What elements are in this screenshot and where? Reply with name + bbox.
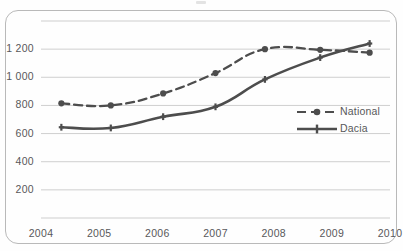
- legend-item-national[interactable]: National: [296, 104, 394, 121]
- data-point-dacia: [367, 40, 372, 47]
- chart-figure: 2004006008001 0001 200 20042005200620072…: [0, 0, 403, 251]
- y-tick-label: 600: [0, 127, 34, 139]
- x-tick-label: 2007: [194, 227, 238, 239]
- data-point-national: [262, 46, 268, 52]
- solid-plus-marker-icon: [296, 121, 338, 137]
- y-tick-label: 200: [0, 183, 34, 195]
- legend-label-dacia: Dacia: [340, 122, 368, 134]
- data-point-dacia: [108, 125, 113, 132]
- y-tick-label: 1 200: [0, 42, 34, 54]
- x-tick-label: 2006: [135, 227, 179, 239]
- x-tick-label: 2005: [77, 227, 121, 239]
- data-point-national: [367, 50, 373, 56]
- chart-legend: National Dacia: [296, 104, 394, 140]
- x-tick-label: 2009: [310, 227, 354, 239]
- legend-item-dacia[interactable]: Dacia: [296, 121, 394, 138]
- data-point-national: [160, 90, 166, 96]
- x-tick-label: 2004: [19, 227, 63, 239]
- data-point-national: [317, 47, 323, 53]
- data-point-national: [108, 102, 114, 108]
- data-point-dacia: [59, 124, 64, 131]
- data-point-national: [58, 100, 64, 106]
- data-point-dacia: [318, 54, 323, 61]
- data-point-dacia: [161, 113, 166, 120]
- legend-label-national: National: [340, 105, 380, 117]
- y-tick-label: 1 000: [0, 70, 34, 82]
- data-point-national: [212, 70, 218, 76]
- x-tick-label: 2010: [368, 227, 403, 239]
- y-tick-label: 800: [0, 98, 34, 110]
- data-point-dacia: [213, 103, 218, 110]
- y-tick-label: 400: [0, 155, 34, 167]
- x-tick-label: 2008: [252, 227, 296, 239]
- dashed-circle-marker-icon: [296, 104, 338, 120]
